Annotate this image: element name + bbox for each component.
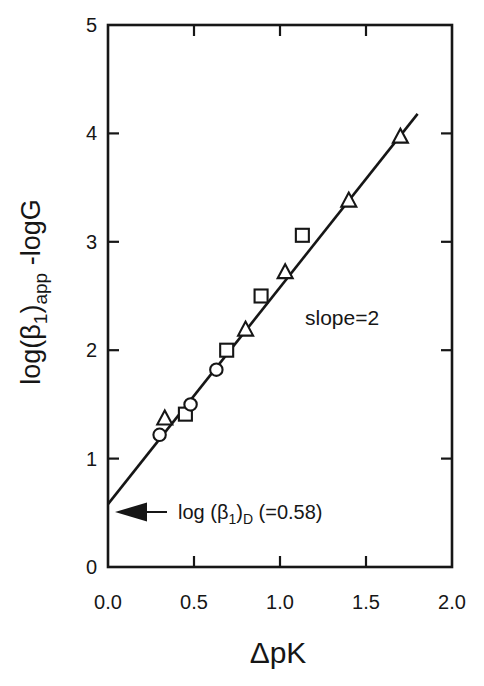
- x-tick-label: 1.5: [352, 591, 380, 613]
- y-tick-label: 4: [86, 122, 97, 144]
- data-point-triangle: [157, 410, 172, 424]
- intercept-arrow-head: [115, 503, 147, 522]
- annotations-layer: log (β1)D (=0.58): [115, 501, 323, 527]
- figure-canvas: 0123450.00.51.01.52.0log(β1)app -logG lo…: [0, 0, 484, 686]
- x-tick-label: 1.0: [266, 591, 294, 613]
- data-point-circle: [184, 398, 196, 410]
- data-point-square: [220, 344, 233, 357]
- axes-layer: 0123450.00.51.01.52.0log(β1)app -logG: [16, 14, 466, 613]
- data-point-circle: [210, 364, 222, 376]
- slope-annotation: slope=2: [305, 306, 379, 329]
- plot-svg: 0123450.00.51.01.52.0log(β1)app -logG lo…: [0, 0, 484, 686]
- y-tick-label: 1: [86, 448, 97, 470]
- data-point-triangle: [278, 264, 293, 278]
- x-tick-label: 0.0: [94, 591, 122, 613]
- data-point-square: [255, 290, 268, 303]
- y-tick-label: 2: [86, 339, 97, 361]
- y-tick-label: 5: [86, 14, 97, 36]
- y-axis-label: log(β1)app -logG: [16, 199, 51, 384]
- plot-border: [108, 25, 452, 567]
- data-point-circle: [153, 429, 165, 441]
- y-tick-label: 3: [86, 231, 97, 253]
- data-point-square: [296, 229, 309, 242]
- y-tick-label: 0: [86, 556, 97, 578]
- intercept-annotation: log (β1)D (=0.58): [178, 501, 323, 527]
- x-axis-label: ΔpK: [250, 636, 307, 669]
- x-tick-label: 2.0: [438, 591, 466, 613]
- x-tick-label: 0.5: [180, 591, 208, 613]
